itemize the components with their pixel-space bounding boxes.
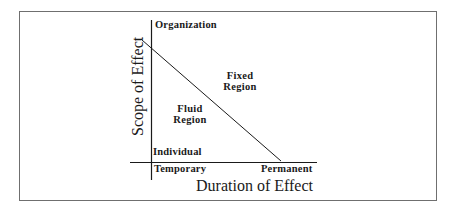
fixed-region-line2: Region	[218, 81, 262, 92]
y-axis-bottom-label: Individual	[153, 146, 202, 157]
fluid-region-line2: Region	[168, 114, 212, 125]
boundary-diagonal-line	[142, 40, 281, 161]
x-axis-right-label: Permanent	[261, 163, 312, 174]
y-axis-title: Scope of Effect	[129, 37, 147, 136]
fluid-region-label: Fluid Region	[168, 103, 212, 125]
x-axis-title: Duration of Effect	[196, 177, 313, 195]
fluid-region-line1: Fluid	[168, 103, 212, 114]
fixed-region-line1: Fixed	[218, 70, 262, 81]
x-axis-left-label: Temporary	[154, 163, 206, 174]
y-axis-top-label: Organization	[155, 19, 217, 30]
fixed-region-label: Fixed Region	[218, 70, 262, 92]
